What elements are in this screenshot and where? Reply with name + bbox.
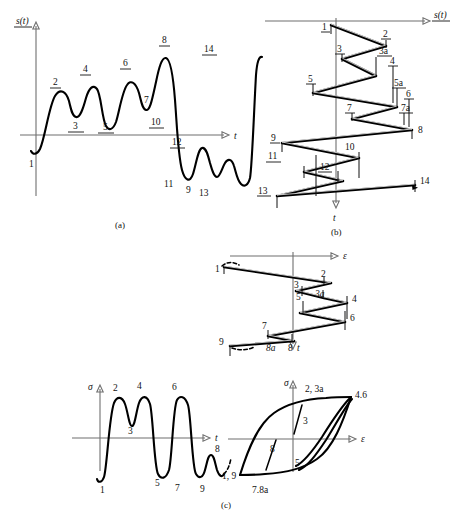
panel-b-point-13: 13 [258, 186, 268, 196]
panel-b-point-1: 1 [322, 22, 327, 32]
panel-b-point-8: 8 [418, 125, 423, 135]
panel-c-left-point-7: 7 [175, 483, 180, 493]
panel-b-leaders [277, 25, 415, 208]
panel-b-point-6: 6 [406, 89, 411, 99]
panel-a-point-14: 14 [204, 44, 214, 54]
panel-a-point-6: 6 [123, 58, 128, 68]
panel-c-left-point-1: 1 [100, 485, 105, 495]
panel-c-left-curve [97, 397, 224, 482]
panel-c-left-point-6: 6 [172, 382, 177, 392]
panel-c-top-point-3: 3 [294, 280, 299, 290]
panel-a-point-13: 13 [199, 188, 209, 198]
panel-a-point-11: 11 [164, 179, 173, 189]
panel-c-right-point-4-6: 4.6 [355, 390, 367, 400]
panel-c-right-point-7-8a: 7.8a [252, 485, 269, 495]
figure-svg: s(t) t 1 2 3 4 5 6 7 8 9 10 11 12 13 [0, 0, 462, 522]
panel-c-top-point-3a: 3a [314, 289, 325, 299]
panel-b-labels: 1 2 3 3a 4 5 5a 6 7 7a 8 9 10 11 [257, 22, 430, 196]
panel-b-point-3: 3 [337, 44, 342, 54]
panel-c-right-inner-loop-right2 [299, 399, 352, 470]
panel-c-top-dash-start [222, 263, 239, 267]
panel-c-left-point-4: 4 [137, 381, 142, 391]
panel-b-point-3a: 3a [379, 46, 389, 56]
panel-a-point-12: 12 [172, 137, 182, 147]
panel-c-top-dash-end [232, 347, 254, 350]
panel-c-left-point-5: 5 [155, 478, 160, 488]
panel-b-point-5a: 5a [394, 78, 404, 88]
panel-c-top-x-axis-label: ε [343, 251, 347, 261]
panel-c-right-point-2-3a: 2, 3a [305, 384, 324, 394]
panel-b-caption: (b) [331, 227, 342, 237]
panel-c-caption: (c) [221, 500, 231, 510]
panel-a-point-10: 10 [151, 117, 161, 127]
panel-c-right-leader-3 [294, 405, 302, 434]
panel-c-right-point-5: 5 [295, 458, 300, 468]
panel-c-top-point-8: 8 [288, 343, 293, 353]
panel-b-y-axis-label: t [333, 213, 336, 223]
panel-a-point-9: 9 [186, 185, 191, 195]
panel-b: s(t) t [257, 10, 450, 237]
panel-c-top-point-2: 2 [321, 269, 326, 279]
panel-a-labels: s(t) t 1 2 3 4 5 6 7 8 9 10 11 12 13 [14, 16, 237, 198]
panel-c-top-point-1: 1 [215, 264, 220, 274]
panel-c-top-point-6: 6 [350, 313, 355, 323]
panel-a-x-axis-label: t [234, 131, 237, 141]
panel-a-point-1: 1 [29, 159, 34, 169]
panel-c-top: ε t 1 2 3 3a 4 5 6 7 8 [215, 251, 357, 356]
panel-c-right-y-axis-label: σ [284, 378, 289, 388]
panel-c-top-point-9: 9 [219, 337, 224, 347]
panel-c-top-point-4: 4 [352, 294, 357, 304]
panel-b-point-12: 12 [320, 162, 330, 172]
panel-c-right-point-3: 3 [303, 416, 308, 426]
panel-c-right-point-8: 8 [270, 444, 275, 454]
panel-a-point-5: 5 [103, 122, 108, 132]
panel-c-top-point-7: 7 [262, 321, 267, 331]
panel-a-point-2: 2 [53, 77, 58, 87]
panel-c-left-point-3: 3 [128, 426, 133, 436]
panel-b-point-7: 7 [347, 103, 352, 113]
panel-c-top-y-axis-label: t [297, 343, 300, 353]
panel-c-left-y-axis-label: σ [88, 382, 93, 392]
panel-c-left-point-2: 2 [113, 383, 118, 393]
panel-b-point-11: 11 [268, 151, 277, 161]
panel-a-point-7: 7 [144, 95, 149, 105]
panel-c-left-point-8: 8 [215, 444, 220, 454]
panel-c-top-point-5: 5 [296, 292, 301, 302]
panel-a-point-4: 4 [83, 64, 88, 74]
panel-b-x-axis-label: s(t) [434, 10, 447, 21]
panel-b-point-2: 2 [383, 29, 388, 39]
panel-c-right-inner-loop-right [296, 398, 350, 466]
panel-b-point-14: 14 [420, 176, 430, 186]
panel-b-zigzag-highlight [277, 24, 415, 195]
panel-c-right-point-1-9: 1, 9 [222, 471, 237, 481]
panel-a-caption: (a) [115, 220, 125, 230]
panel-b-zigzag [277, 25, 415, 196]
panel-b-point-7a: 7a [401, 103, 411, 113]
panel-c-top-zigzag [224, 267, 347, 346]
panel-c-left-x-axis-label: t [215, 433, 218, 443]
panel-a-y-axis-label: s(t) [16, 16, 29, 27]
panel-a-point-8: 8 [162, 35, 167, 45]
panel-b-point-10: 10 [345, 142, 355, 152]
panel-c-right-x-axis-label: ε [361, 434, 365, 444]
panel-c-left-point-9: 9 [200, 484, 205, 494]
panel-b-point-4: 4 [390, 56, 395, 66]
panel-c-top-point-8a: 8a [266, 343, 276, 353]
panel-a-point-3: 3 [73, 121, 78, 131]
panel-a: s(t) t 1 2 3 4 5 6 7 8 9 10 11 12 13 [14, 16, 262, 230]
figure-root: s(t) t 1 2 3 4 5 6 7 8 9 10 11 12 13 [0, 0, 462, 522]
panel-b-point-9: 9 [271, 133, 276, 143]
panel-a-curve [31, 57, 262, 186]
panel-b-point-5: 5 [308, 74, 313, 84]
panel-c-left: σ t 1 2 3 4 5 6 7 8 9 [72, 381, 231, 495]
panel-c-right: σ ε 2, 3a 3 4.6 8 5 1, 9 7.8a (c) [221, 378, 367, 510]
